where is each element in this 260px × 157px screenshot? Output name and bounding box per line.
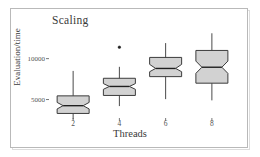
boxplot-group-4 (103, 46, 135, 106)
x-tick-label-8: 8 (202, 119, 222, 128)
boxplot-group-6 (150, 43, 182, 99)
box-6 (150, 57, 182, 76)
y-tick-label-10000: 10000 (22, 55, 45, 63)
box-2 (57, 96, 89, 114)
boxplot-group-2 (57, 71, 89, 119)
chart-title: Scaling (52, 14, 89, 26)
x-axis-label: Threads (0, 128, 260, 139)
boxplot-group-8 (196, 33, 228, 100)
boxplot-series (57, 33, 228, 119)
x-tick-label-2: 2 (63, 119, 83, 128)
y-tick-label-5000: 5000 (22, 96, 45, 104)
y-axis-label: Evaluation/time (12, 18, 22, 96)
chart-screenshot: Scaling Evaluation/time Threads 10000 50… (0, 0, 260, 157)
x-tick-label-6: 6 (156, 119, 176, 128)
x-tick-label-4: 4 (109, 119, 129, 128)
outlier-point-4-0 (118, 46, 121, 49)
